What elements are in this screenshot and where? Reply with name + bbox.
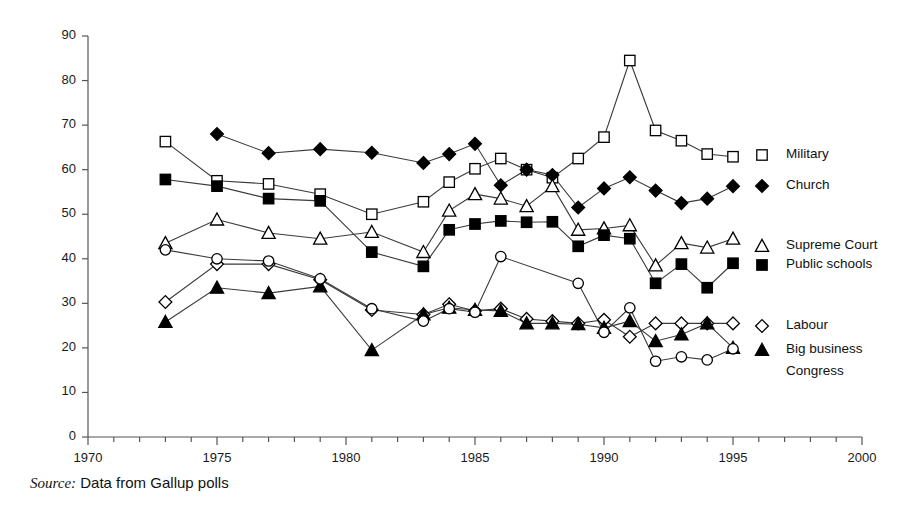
data-point-marker bbox=[702, 355, 712, 365]
data-point-marker bbox=[418, 261, 428, 271]
legend-marker bbox=[757, 260, 767, 270]
data-point-marker bbox=[210, 281, 223, 293]
data-point-marker bbox=[727, 180, 740, 193]
data-point-marker bbox=[160, 174, 170, 184]
data-point-marker bbox=[675, 197, 688, 210]
data-point-marker bbox=[649, 259, 662, 271]
x-tick-label: 1975 bbox=[187, 450, 247, 465]
data-point-marker bbox=[727, 317, 740, 330]
data-point-marker bbox=[675, 237, 688, 249]
data-point-marker bbox=[367, 247, 377, 257]
data-point-marker bbox=[443, 204, 456, 216]
data-point-marker bbox=[315, 274, 325, 284]
y-tick-label: 60 bbox=[30, 161, 76, 176]
legend-marker-church bbox=[756, 180, 769, 193]
data-point-marker bbox=[521, 217, 531, 227]
data-point-marker bbox=[263, 256, 273, 266]
data-point-marker bbox=[263, 193, 273, 203]
legend-marker-labour bbox=[756, 320, 769, 333]
data-point-marker bbox=[623, 219, 636, 231]
x-tick-label: 1970 bbox=[58, 450, 118, 465]
legend-marker bbox=[756, 320, 769, 333]
data-point-marker bbox=[623, 330, 636, 343]
y-tick-label: 30 bbox=[30, 294, 76, 309]
x-tick-label: 1995 bbox=[703, 450, 763, 465]
data-point-marker bbox=[728, 258, 738, 268]
data-point-marker bbox=[649, 184, 662, 197]
y-tick-label: 20 bbox=[30, 339, 76, 354]
legend-marker-big-business bbox=[755, 343, 768, 355]
data-point-marker bbox=[444, 177, 454, 187]
source-label: Source: bbox=[30, 475, 76, 491]
data-point-marker bbox=[262, 226, 275, 238]
x-tick-label: 1980 bbox=[316, 450, 376, 465]
data-point-marker bbox=[599, 132, 609, 142]
source-text: Data from Gallup polls bbox=[80, 474, 228, 491]
data-point-marker bbox=[676, 352, 686, 362]
data-point-marker bbox=[417, 245, 430, 257]
data-point-marker bbox=[418, 316, 428, 326]
data-point-marker bbox=[726, 232, 739, 244]
source-note: Source: Data from Gallup polls bbox=[30, 474, 229, 492]
data-point-marker bbox=[675, 328, 688, 340]
markers-congress bbox=[160, 245, 738, 367]
line-chart-canvas bbox=[0, 0, 921, 520]
data-point-marker bbox=[623, 171, 636, 184]
legend-marker bbox=[756, 180, 769, 193]
data-point-marker bbox=[212, 254, 222, 264]
data-point-marker bbox=[650, 356, 660, 366]
x-tick-label: 1990 bbox=[574, 450, 634, 465]
markers-military bbox=[160, 55, 738, 219]
data-point-marker bbox=[444, 303, 454, 313]
legend-label-supreme-court: Supreme Court bbox=[786, 237, 878, 252]
legend-label-public-schools: Public schools bbox=[786, 256, 872, 271]
data-point-marker bbox=[470, 307, 480, 317]
data-point-marker bbox=[702, 283, 712, 293]
legend-marker bbox=[757, 150, 767, 160]
data-point-marker bbox=[547, 217, 557, 227]
series-line bbox=[165, 61, 733, 215]
data-point-marker bbox=[599, 230, 609, 240]
legend-label-military: Military bbox=[786, 146, 829, 161]
series-military bbox=[165, 61, 733, 215]
data-point-marker bbox=[573, 153, 583, 163]
data-point-marker bbox=[367, 303, 377, 313]
data-point-marker bbox=[598, 182, 611, 195]
y-tick-label: 90 bbox=[30, 27, 76, 42]
legend-label-church: Church bbox=[786, 177, 830, 192]
data-point-marker bbox=[625, 234, 635, 244]
data-point-marker bbox=[365, 225, 378, 237]
data-point-marker bbox=[649, 317, 662, 330]
y-tick-label: 80 bbox=[30, 72, 76, 87]
data-point-marker bbox=[625, 55, 635, 65]
data-point-marker bbox=[701, 192, 714, 205]
data-point-marker bbox=[572, 201, 585, 214]
series-big-business bbox=[165, 286, 733, 350]
data-point-marker bbox=[367, 209, 377, 219]
data-point-marker bbox=[159, 315, 172, 327]
data-point-marker bbox=[365, 344, 378, 356]
data-point-marker bbox=[443, 148, 456, 161]
data-point-marker bbox=[263, 179, 273, 189]
data-point-marker bbox=[211, 128, 224, 141]
chart-figure: Source: Data from Gallup polls 010203040… bbox=[0, 0, 921, 520]
data-point-marker bbox=[470, 219, 480, 229]
data-point-marker bbox=[676, 259, 686, 269]
y-tick-label: 70 bbox=[30, 116, 76, 131]
data-point-marker bbox=[365, 146, 378, 159]
y-tick-label: 10 bbox=[30, 383, 76, 398]
data-point-marker bbox=[159, 296, 172, 309]
data-point-marker bbox=[728, 344, 738, 354]
legend-marker-military bbox=[757, 150, 767, 160]
series-line bbox=[165, 286, 733, 350]
data-point-marker bbox=[315, 196, 325, 206]
data-point-marker bbox=[728, 152, 738, 162]
data-point-marker bbox=[650, 125, 660, 135]
data-point-marker bbox=[468, 188, 481, 200]
data-point-marker bbox=[212, 181, 222, 191]
legend-label-big-business: Big business bbox=[786, 341, 863, 356]
data-point-marker bbox=[496, 216, 506, 226]
x-tick-label: 1985 bbox=[445, 450, 505, 465]
data-point-marker bbox=[599, 327, 609, 337]
x-tick-label: 2000 bbox=[832, 450, 892, 465]
